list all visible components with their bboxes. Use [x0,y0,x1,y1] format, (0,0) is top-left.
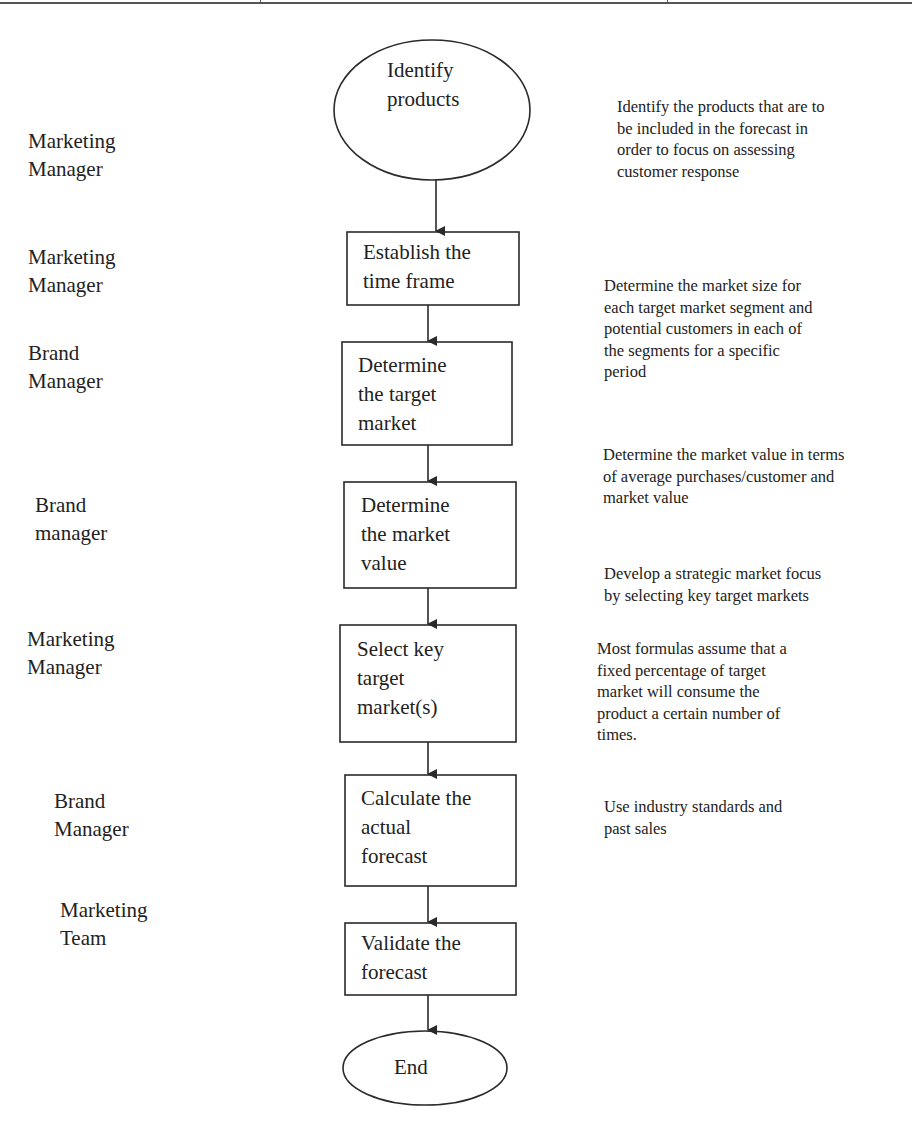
role-label: Marketing Team [60,896,147,952]
step-5-label: Calculate the actual forecast [361,784,471,871]
node-label-line: value [361,549,450,578]
role-line: Manager [28,271,115,299]
node-label-line: Identify [387,56,459,85]
step-description: Most formulas assume that a fixed percen… [597,638,787,746]
start-node-label: Identify products [387,56,459,114]
step-3-label: Determine the market value [361,491,450,578]
node-label-line: forecast [361,958,461,987]
node-label-line: Validate the [361,929,461,958]
node-label-line: the target [358,380,447,409]
description-line: potential customers in each of [604,318,813,340]
role-line: Manager [28,367,103,395]
description-line: Determine the market size for [604,275,813,297]
node-label-line: Determine [361,491,450,520]
description-line: be included in the forecast in [617,118,825,140]
description-line: Most formulas assume that a [597,638,787,660]
step-description: Develop a strategic market focus by sele… [604,563,821,606]
node-label-line: products [387,85,459,114]
description-line: Determine the market value in terms [603,444,844,466]
node-label-line: Calculate the [361,784,471,813]
node-label-line: market(s) [357,693,444,722]
node-label-line: time frame [363,267,471,296]
step-6-label: Validate the forecast [361,929,461,987]
role-line: manager [35,519,107,547]
description-line: Use industry standards and [604,796,782,818]
node-label-line: market [358,409,447,438]
role-label: Brand manager [35,491,107,547]
step-description: Determine the market size for each targe… [604,275,813,383]
role-label: Marketing Manager [28,127,115,183]
node-label-line: Select key [357,635,444,664]
role-label: Brand Manager [28,339,103,395]
role-line: Brand [54,787,129,815]
role-line: Marketing [28,127,115,155]
role-line: Marketing [27,625,114,653]
role-label: Marketing Manager [28,243,115,299]
description-line: the segments for a specific [604,340,813,362]
node-label-line: Establish the [363,238,471,267]
step-1-label: Establish the time frame [363,238,471,296]
description-line: each target market segment and [604,297,813,319]
step-2-label: Determine the target market [358,351,447,438]
role-line: Brand [35,491,107,519]
step-4-label: Select key target market(s) [357,635,444,722]
role-label: Brand Manager [54,787,129,843]
role-line: Marketing [60,896,147,924]
description-line: order to focus on assessing [617,139,825,161]
description-line: market will consume the [597,681,787,703]
node-label-line: Determine [358,351,447,380]
description-line: market value [603,487,844,509]
role-label: Marketing Manager [27,625,114,681]
role-line: Team [60,924,147,952]
description-line: customer response [617,161,825,183]
description-line: period [604,361,813,383]
description-line: Develop a strategic market focus [604,563,821,585]
node-label-line: target [357,664,444,693]
role-line: Brand [28,339,103,367]
step-description: Determine the market value in terms of a… [603,444,844,509]
description-line: fixed percentage of target [597,660,787,682]
role-line: Manager [28,155,115,183]
description-line: product a certain number of [597,703,787,725]
role-line: Marketing [28,243,115,271]
description-line: times. [597,724,787,746]
description-line: past sales [604,818,782,840]
role-line: Manager [27,653,114,681]
description-line: of average purchases/customer and [603,466,844,488]
role-line: Manager [54,815,129,843]
end-node-label: End [394,1053,428,1082]
step-description: Identify the products that are to be inc… [617,96,825,182]
node-label-line: the market [361,520,450,549]
node-label-line: End [394,1053,428,1082]
description-line: by selecting key target markets [604,585,821,607]
node-label-line: actual [361,813,471,842]
description-line: Identify the products that are to [617,96,825,118]
node-label-line: forecast [361,842,471,871]
step-description: Use industry standards and past sales [604,796,782,839]
